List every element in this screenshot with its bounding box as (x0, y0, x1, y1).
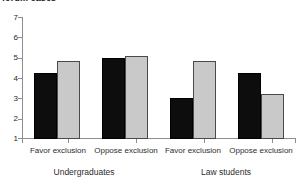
y-tick-label: 1 (4, 135, 18, 143)
y-tick-label: 3 (4, 95, 18, 103)
y-axis-line (22, 17, 23, 139)
bar-group4-series1 (238, 73, 261, 139)
plot-area (22, 17, 296, 139)
y-tick-label: 5 (4, 54, 18, 62)
y-axis-tick (18, 37, 22, 38)
x-axis-tick (272, 139, 273, 143)
y-axis-tick (18, 17, 22, 18)
y-tick-label: 6 (4, 34, 18, 42)
bar-chart: forum cases 7 6 5 4 3 2 1 (0, 0, 306, 187)
bar-group4-series2 (261, 94, 284, 139)
y-axis-tick (18, 98, 22, 99)
x-axis-tick (22, 139, 23, 143)
bar-group2-series1 (102, 58, 125, 139)
chart-title: forum cases (2, 0, 56, 1)
x-axis-tick (68, 139, 69, 143)
bar-group1-series1 (34, 73, 57, 139)
y-tick-label: 4 (4, 75, 18, 83)
y-axis-tick (18, 78, 22, 79)
bar-group1-series2 (57, 61, 80, 139)
bar-group2-series2 (125, 56, 148, 139)
x-group-label-law-students: Law students (168, 167, 284, 177)
y-axis-tick (18, 58, 22, 59)
x-axis-tick (204, 139, 205, 143)
x-axis-tick (136, 139, 137, 143)
x-axis-tick (295, 139, 296, 143)
bar-group3-series2 (193, 61, 216, 139)
y-axis-tick (18, 119, 22, 120)
bar-group3-series1 (170, 98, 193, 139)
y-tick-label: 2 (4, 115, 18, 123)
x-group-label-undergraduates: Undergraduates (24, 167, 144, 177)
y-tick-label: 7 (4, 14, 18, 22)
x-category-label-4: Oppose exclusion (214, 146, 306, 155)
